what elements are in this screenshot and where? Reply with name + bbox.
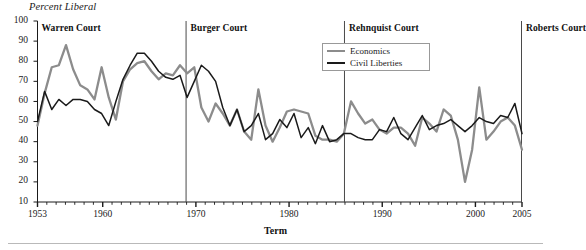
footer-divider xyxy=(8,243,543,244)
era-label: Roberts Court xyxy=(526,23,586,33)
chart-legend: Economics Civil Liberties xyxy=(322,43,430,71)
y-axis-tick-label: 30 xyxy=(2,155,28,165)
x-axis-tick-label: 1980 xyxy=(266,209,312,219)
x-axis-tick-label: 1990 xyxy=(359,209,405,219)
y-axis-tick-label: 70 xyxy=(2,75,28,85)
axis-spine xyxy=(38,21,523,202)
y-axis-tick-label: 100 xyxy=(2,15,28,25)
era-label: Warren Court xyxy=(42,23,101,33)
y-axis-tick-label: 40 xyxy=(2,135,28,145)
x-axis-tick-label: 2005 xyxy=(499,209,545,219)
legend-swatch-civil-liberties xyxy=(327,62,345,64)
legend-label-economics: Economics xyxy=(350,46,390,56)
era-label: Burger Court xyxy=(191,23,248,33)
legend-label-civil-liberties: Civil Liberties xyxy=(350,58,402,68)
era-label: Rehnquist Court xyxy=(349,23,419,33)
x-axis-title: Term xyxy=(0,225,551,236)
legend-item-civil-liberties: Civil Liberties xyxy=(327,57,402,69)
y-axis-tick-label: 50 xyxy=(2,115,28,125)
series-line-economics xyxy=(38,45,523,182)
data-series-group xyxy=(38,45,523,182)
legend-swatch-economics xyxy=(327,50,345,52)
y-axis-tick-label: 90 xyxy=(2,35,28,45)
y-axis-tick-label: 20 xyxy=(2,175,28,185)
legend-item-economics: Economics xyxy=(327,45,390,57)
x-axis-tick-label: 2000 xyxy=(452,209,498,219)
x-axis-tick-label: 1953 xyxy=(15,209,61,219)
x-axis-tick-label: 1970 xyxy=(173,209,219,219)
y-axis-tick-label: 10 xyxy=(2,196,28,206)
y-axis-tick-label: 60 xyxy=(2,95,28,105)
y-axis-tick-label: 80 xyxy=(2,55,28,65)
x-axis-tick-label: 1960 xyxy=(80,209,126,219)
